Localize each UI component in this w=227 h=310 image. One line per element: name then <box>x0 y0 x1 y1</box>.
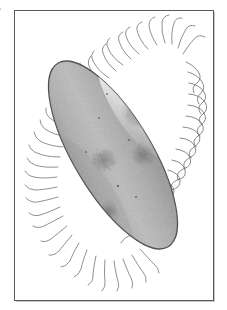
vacuole <box>72 194 96 216</box>
vacuole <box>130 143 156 167</box>
vacuole <box>90 147 118 173</box>
vacuole <box>121 98 155 128</box>
specimen-illustration <box>0 0 227 310</box>
cell-body <box>24 40 201 275</box>
figure-root: 6 <box>0 0 227 310</box>
vacuole <box>99 200 119 224</box>
